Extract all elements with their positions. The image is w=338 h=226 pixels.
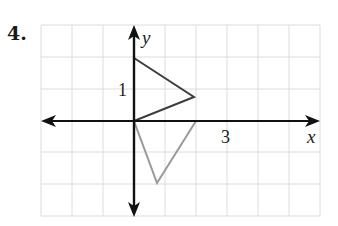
- y-tick-label-1: 1: [118, 80, 127, 100]
- x-tick-label-3: 3: [221, 127, 230, 147]
- coordinate-graph: y x 1 3: [0, 0, 338, 226]
- x-axis-label: x: [306, 126, 316, 147]
- x-axis: [41, 115, 320, 127]
- y-axis-label: y: [140, 27, 151, 48]
